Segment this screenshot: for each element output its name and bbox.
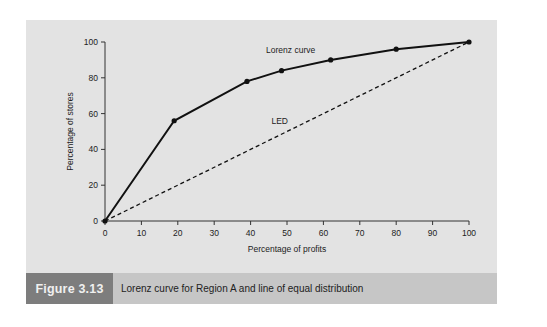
- x-tick-label: 60: [319, 228, 329, 238]
- x-tick-label: 10: [137, 228, 147, 238]
- data-point-marker: [279, 68, 284, 73]
- figure-caption: Lorenz curve for Region A and line of eq…: [121, 283, 363, 294]
- y-tick-label: 40: [89, 144, 99, 154]
- led-annotation: LED: [271, 116, 288, 126]
- axes: 0102030405060708090100020406080100: [84, 37, 477, 238]
- x-tick-label: 40: [246, 228, 256, 238]
- x-tick-label: 30: [209, 228, 219, 238]
- x-tick-label: 50: [282, 228, 292, 238]
- x-axis-title: Percentage of profits: [248, 244, 326, 254]
- data-point-marker: [466, 39, 471, 44]
- lorenz-curve-annotation: Lorenz curve: [266, 45, 315, 55]
- y-tick-label: 60: [89, 109, 99, 119]
- y-tick-label: 0: [93, 216, 98, 226]
- data-point-marker: [328, 57, 333, 62]
- x-tick-label: 0: [103, 228, 108, 238]
- x-tick-label: 20: [173, 228, 183, 238]
- x-tick-label: 80: [391, 228, 401, 238]
- y-tick-label: 80: [89, 73, 99, 83]
- y-tick-label: 20: [89, 180, 99, 190]
- x-tick-label: 70: [355, 228, 365, 238]
- figure-caption-bar: Figure 3.13 Lorenz curve for Region A an…: [26, 273, 497, 304]
- x-tick-label: 100: [462, 228, 476, 238]
- data-point-marker: [172, 118, 177, 123]
- data-point-marker: [244, 79, 249, 84]
- y-axis-title: Percentage of stores: [65, 92, 75, 170]
- data-point-marker: [394, 47, 399, 52]
- y-tick-label: 100: [84, 37, 98, 47]
- series-layer: [102, 39, 471, 223]
- x-tick-label: 90: [428, 228, 438, 238]
- figure-number: Figure 3.13: [26, 273, 113, 304]
